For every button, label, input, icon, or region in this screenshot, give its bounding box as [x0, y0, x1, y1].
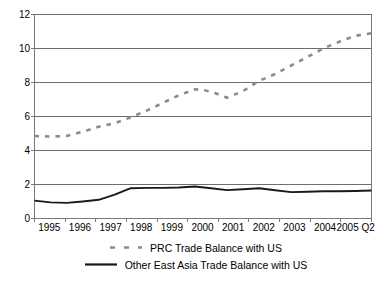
x-axis-labels: 1995199619971998199920002001200220032004…	[34, 220, 382, 236]
chart-canvas	[0, 0, 391, 232]
x-tick-label: 2003	[283, 222, 305, 233]
x-tick-label: 2004	[314, 222, 336, 233]
y-tick-label: 0	[4, 214, 30, 224]
chart-legend: PRC Trade Balance with US Other East Asi…	[0, 240, 391, 272]
legend-label-other-east-asia: Other East Asia Trade Balance with US	[125, 259, 308, 271]
x-tick-label: 1998	[130, 222, 152, 233]
legend-item-other-east-asia[interactable]: Other East Asia Trade Balance with US	[84, 257, 308, 272]
plot-area	[0, 0, 391, 232]
series-lines	[35, 33, 372, 203]
y-tick-label: 12	[4, 10, 30, 20]
chart-figure: 024681012 199519961997199819992000200120…	[0, 0, 391, 281]
x-tick-label: 1997	[99, 222, 121, 233]
x-tick-label: 2002	[253, 222, 275, 233]
y-tick-label: 10	[4, 44, 30, 54]
y-tick-label: 8	[4, 78, 30, 88]
legend-item-prc[interactable]: PRC Trade Balance with US	[109, 240, 282, 255]
x-tick-label: 2005 Q2	[336, 222, 374, 233]
x-tick-label: 1996	[69, 222, 91, 233]
gridlines	[35, 15, 372, 185]
x-tick-label: 1999	[161, 222, 183, 233]
y-tick-label: 6	[4, 112, 30, 122]
legend-label-prc: PRC Trade Balance with US	[150, 242, 282, 254]
y-axis-labels: 024681012	[0, 0, 30, 232]
y-tick-label: 4	[4, 146, 30, 156]
x-tick-label: 2001	[222, 222, 244, 233]
x-tick-label: 2000	[191, 222, 213, 233]
legend-key-solid-icon	[84, 259, 118, 270]
y-tick-label: 2	[4, 180, 30, 190]
legend-key-dashed-icon	[109, 242, 143, 253]
x-tick-label: 1995	[38, 222, 60, 233]
series-line-1	[35, 187, 372, 203]
